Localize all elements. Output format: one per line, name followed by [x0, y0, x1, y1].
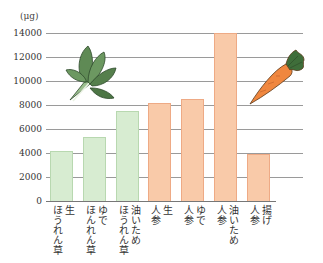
x-tick-label: ゆでほんれん草 [84, 205, 107, 255]
spinach-icon [64, 44, 120, 104]
y-tick-label: 0 [0, 196, 42, 206]
y-tick-label: 6000 [0, 124, 42, 134]
y-axis-unit: (μg) [20, 11, 39, 21]
x-tick-label: 生ほうれん草 [51, 205, 74, 255]
bar [116, 111, 139, 201]
x-tick-label: 生人参 [149, 205, 172, 225]
bar [181, 99, 204, 201]
y-tick-label: 14000 [0, 28, 42, 38]
bar [247, 154, 270, 201]
x-tick-label: 油いためほうれん草 [117, 205, 140, 255]
y-tick-label: 12000 [0, 52, 42, 62]
bar [148, 103, 171, 201]
y-tick-label: 4000 [0, 148, 42, 158]
bar [214, 33, 237, 201]
x-tick-label: 油いため人参 [215, 205, 238, 245]
gridline [46, 33, 303, 34]
carrot-icon [246, 46, 308, 108]
gridline [46, 129, 303, 130]
y-tick-label: 2000 [0, 172, 42, 182]
y-tick-label: 10000 [0, 76, 42, 86]
bar [50, 151, 73, 201]
bar [83, 137, 106, 201]
gridline [46, 201, 276, 202]
x-tick-label: 揚げ人参 [248, 205, 271, 225]
x-tick-label: ゆで人参 [182, 205, 205, 225]
y-tick-label: 8000 [0, 100, 42, 110]
